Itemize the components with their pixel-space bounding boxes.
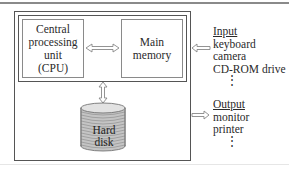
input-arrow xyxy=(192,44,210,52)
output-item: monitor xyxy=(213,111,249,124)
output-arrow xyxy=(192,111,209,119)
input-item: camera xyxy=(213,50,286,63)
input-item: keyboard xyxy=(213,38,286,51)
disk-label-line: Hard xyxy=(82,124,126,136)
cpu-memory-arrow xyxy=(86,44,119,52)
hard-disk-label: Hard disk xyxy=(82,124,126,148)
input-heading: Input xyxy=(213,25,286,38)
input-devices: Input keyboard camera CD-ROM drive xyxy=(213,25,286,75)
input-more-ellipsis: ⋮ xyxy=(226,75,238,85)
input-item: CD-ROM drive xyxy=(213,63,286,76)
output-heading: Output xyxy=(213,98,249,111)
output-devices: Output monitor printer xyxy=(213,98,249,136)
output-more-ellipsis: ⋮ xyxy=(226,136,238,146)
disk-label-line: disk xyxy=(82,136,126,148)
memory-disk-arrow xyxy=(99,82,107,103)
